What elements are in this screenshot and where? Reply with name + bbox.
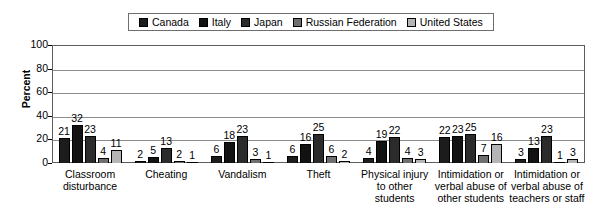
legend-swatch-canada xyxy=(139,18,148,27)
bar-group: 3132313 xyxy=(509,45,585,163)
x-axis-category-label: Intimidation orverbal abuse ofteachers o… xyxy=(509,168,585,204)
bar[interactable] xyxy=(287,156,298,163)
legend-entry-label: Russian Federation xyxy=(306,17,397,28)
x-axis-category-label: Physical injuryto otherstudents xyxy=(357,168,433,204)
x-axis-category-label: Intimidation orverbal abuse ofother stud… xyxy=(433,168,509,204)
legend-entry[interactable]: United States xyxy=(402,17,488,28)
bar-value-label: 25 xyxy=(306,122,331,133)
category-label-line: verbal abuse of xyxy=(509,180,585,192)
y-axis-tick-label: 80 xyxy=(18,63,48,73)
bar[interactable] xyxy=(98,158,109,163)
bar[interactable] xyxy=(363,158,374,163)
bar[interactable] xyxy=(376,141,387,163)
legend-swatch-russian-federation xyxy=(293,18,302,27)
category-label-line: Intimidation or xyxy=(509,168,585,180)
x-axis-category-labels: ClassroomdisturbanceCheatingVandalismThe… xyxy=(52,168,585,214)
bar-value-label: 3 xyxy=(408,147,433,158)
y-axis-tick-mark xyxy=(48,163,52,164)
bar[interactable] xyxy=(263,162,274,163)
bar-value-label: 16 xyxy=(484,132,509,143)
bar[interactable] xyxy=(187,162,198,163)
legend-entry[interactable]: Japan xyxy=(236,17,288,28)
bar[interactable] xyxy=(491,144,502,163)
bar[interactable] xyxy=(339,161,350,163)
bar-group: 251321 xyxy=(128,45,204,163)
legend-entry[interactable]: Italy xyxy=(194,17,236,28)
bar-group: 4192243 xyxy=(357,45,433,163)
bar-value-label: 13 xyxy=(154,136,179,147)
category-label-line: verbal abuse of xyxy=(433,180,509,192)
bar-group: 213223411 xyxy=(52,45,128,163)
y-axis-tick-label: 60 xyxy=(18,86,48,96)
legend-swatch-italy xyxy=(199,18,208,27)
bar-value-label: 23 xyxy=(78,124,103,135)
category-label-line: students xyxy=(357,192,433,204)
bar-value-label: 1 xyxy=(180,150,205,161)
bar-value-label: 23 xyxy=(534,124,559,135)
bar-group: 6162562 xyxy=(280,45,356,163)
bar-value-label: 1 xyxy=(256,150,281,161)
bar-group: 222325716 xyxy=(433,45,509,163)
bar[interactable] xyxy=(111,150,122,163)
category-label-line: Physical injury xyxy=(357,168,433,180)
bar-groups: 2132234112513216182331616256241922432223… xyxy=(52,45,585,163)
bar[interactable] xyxy=(211,156,222,163)
legend-entry-label: Japan xyxy=(254,17,283,28)
category-label-line: Classroom xyxy=(52,168,128,180)
y-axis-tick-label: 20 xyxy=(18,133,48,143)
category-label-line: other students xyxy=(433,192,509,204)
x-axis-category-label: Cheating xyxy=(128,168,204,180)
category-label-line: Intimidation or xyxy=(433,168,509,180)
legend-swatch-united-states xyxy=(407,18,416,27)
bar[interactable] xyxy=(439,137,450,163)
legend-entry[interactable]: Canada xyxy=(134,17,194,28)
bar[interactable] xyxy=(148,157,159,163)
bar[interactable] xyxy=(452,136,463,163)
bar-value-label: 11 xyxy=(104,138,129,149)
category-label-line: to other xyxy=(357,180,433,192)
category-label-line: Vandalism xyxy=(204,168,280,180)
y-axis-tick-label: 40 xyxy=(18,110,48,120)
bar[interactable] xyxy=(402,158,413,163)
bar[interactable] xyxy=(300,144,311,163)
bar[interactable] xyxy=(415,159,426,163)
bar[interactable] xyxy=(554,162,565,163)
bar[interactable] xyxy=(567,159,578,163)
legend-entry-label: Italy xyxy=(212,17,231,28)
bar[interactable] xyxy=(478,155,489,163)
legend-swatch-japan xyxy=(241,18,250,27)
bar-value-label: 22 xyxy=(382,125,407,136)
x-axis-category-label: Theft xyxy=(280,168,356,180)
y-axis-tick-label: 0 xyxy=(18,157,48,167)
bar-value-label: 25 xyxy=(458,122,483,133)
bar-value-label: 2 xyxy=(332,149,357,160)
legend-entry-label: Canada xyxy=(152,17,189,28)
bar[interactable] xyxy=(528,148,539,163)
bar[interactable] xyxy=(174,161,185,163)
bar-group: 6182331 xyxy=(204,45,280,163)
chart-legend: CanadaItalyJapanRussian FederationUnited… xyxy=(128,13,494,31)
bar[interactable] xyxy=(224,142,235,163)
category-label-line: disturbance xyxy=(52,180,128,192)
bar[interactable] xyxy=(515,159,526,163)
legend-entry[interactable]: Russian Federation xyxy=(288,17,402,28)
category-label-line: Theft xyxy=(280,168,356,180)
category-label-line: teachers or staff xyxy=(509,192,585,204)
bar-value-label: 23 xyxy=(230,124,255,135)
legend-entry-label: United States xyxy=(420,17,483,28)
x-axis-category-label: Vandalism xyxy=(204,168,280,180)
bar-value-label: 3 xyxy=(560,147,585,158)
bar[interactable] xyxy=(135,161,146,163)
y-axis-tick-label: 100 xyxy=(18,39,48,49)
bar[interactable] xyxy=(59,138,70,163)
category-label-line: Cheating xyxy=(128,168,204,180)
x-axis-category-label: Classroomdisturbance xyxy=(52,168,128,192)
